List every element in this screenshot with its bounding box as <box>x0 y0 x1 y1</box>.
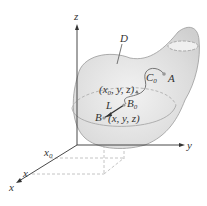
region-label-d: D <box>119 32 128 44</box>
z-arrowhead <box>75 24 79 30</box>
point-b0 <box>122 103 125 106</box>
x-axis-label: x <box>8 181 14 193</box>
projection-line-diagonal <box>104 158 124 174</box>
z-axis-label: z <box>73 10 79 22</box>
diagram: z y x x0 x D C0 A (x0, y, z) B0 L B (x, … <box>0 0 207 206</box>
point-b <box>102 116 105 119</box>
x0-tick-label: x0 <box>43 146 53 160</box>
coord-b-label: (x, y, z) <box>108 112 140 125</box>
point-a-label: A <box>167 72 175 84</box>
segment-l-label: L <box>105 99 112 111</box>
y-arrowhead <box>179 143 185 147</box>
coord-b0-label: (x0, y, z) <box>99 83 135 97</box>
point-b-label: B <box>95 111 102 123</box>
y-axis-label: y <box>186 139 192 151</box>
point-a <box>162 72 166 76</box>
x-tick-label: x <box>22 167 28 179</box>
x-arrowhead <box>16 178 22 183</box>
top-opening <box>168 41 198 51</box>
